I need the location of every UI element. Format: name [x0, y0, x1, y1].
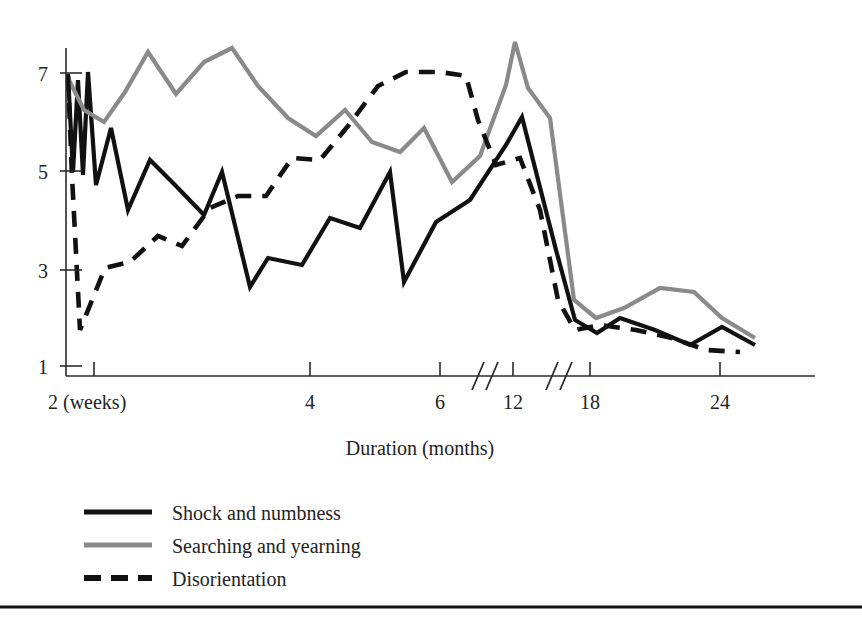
chart-canvas: 7 5 3 1 2 (weeks) 4 6 12 18 24 Duration … [0, 0, 862, 619]
y-tick-label-7: 7 [38, 63, 48, 85]
legend-label-searching-and-yearning: Searching and yearning [172, 535, 361, 558]
legend-label-disorientation: Disorientation [172, 568, 286, 590]
series-line-shock-and-numbness [68, 72, 755, 345]
x-tick-label-12: 12 [503, 391, 523, 413]
grief-phases-line-chart-figure: 7 5 3 1 2 (weeks) 4 6 12 18 24 Duration … [0, 0, 862, 619]
x-tick-label-24: 24 [710, 391, 730, 413]
y-tick-label-1: 1 [38, 356, 48, 378]
y-tick-labels: 7 5 3 1 [38, 63, 48, 378]
x-tick-label-18: 18 [580, 391, 600, 413]
x-tick-label-2-weeks: 2 (weeks) [48, 391, 126, 414]
y-tick-label-5: 5 [38, 161, 48, 183]
x-tick-label-6: 6 [435, 391, 445, 413]
x-tick-label-4: 4 [305, 391, 315, 413]
series-layer [68, 42, 755, 352]
legend: Shock and numbness Searching and yearnin… [84, 502, 361, 590]
x-tick-labels: 2 (weeks) 4 6 12 18 24 [48, 391, 730, 414]
series-line-searching-and-yearning [68, 42, 755, 338]
plot-area [68, 42, 755, 352]
series-line-disorientation [68, 72, 740, 352]
y-tick-label-3: 3 [38, 260, 48, 282]
x-axis-ticks [94, 362, 720, 376]
x-axis-title: Duration (months) [346, 437, 494, 460]
legend-label-shock-and-numbness: Shock and numbness [172, 502, 341, 524]
